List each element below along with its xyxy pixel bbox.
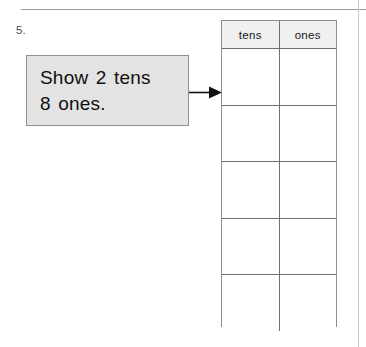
cell-tens[interactable] bbox=[222, 218, 279, 275]
cell-ones[interactable] bbox=[279, 162, 336, 219]
cell-ones[interactable] bbox=[279, 105, 336, 162]
right-margin-line bbox=[358, 0, 359, 347]
cell-ones[interactable] bbox=[279, 49, 336, 106]
table-row bbox=[222, 105, 336, 162]
instruction-text: Show 2 tens 8 ones. bbox=[40, 65, 182, 117]
cell-tens[interactable] bbox=[222, 275, 279, 331]
table-row bbox=[222, 49, 336, 106]
instruction-callout-box: Show 2 tens 8 ones. bbox=[26, 55, 189, 126]
cell-tens[interactable] bbox=[222, 162, 279, 219]
cell-ones[interactable] bbox=[279, 275, 336, 331]
cell-tens[interactable] bbox=[222, 105, 279, 162]
place-value-table: tens ones bbox=[221, 20, 337, 327]
arrow-right-icon bbox=[189, 84, 223, 101]
table-header-row: tens ones bbox=[222, 21, 336, 49]
cell-ones[interactable] bbox=[279, 218, 336, 275]
cell-tens[interactable] bbox=[222, 49, 279, 106]
problem-number: 5. bbox=[16, 25, 26, 37]
table-row bbox=[222, 275, 336, 331]
top-divider-rule bbox=[21, 9, 366, 10]
column-header-ones: ones bbox=[279, 21, 336, 49]
column-header-tens: tens bbox=[222, 21, 279, 49]
table-row bbox=[222, 162, 336, 219]
table-row bbox=[222, 218, 336, 275]
worksheet-page: 5. Show 2 tens 8 ones. tens ones bbox=[0, 0, 366, 347]
